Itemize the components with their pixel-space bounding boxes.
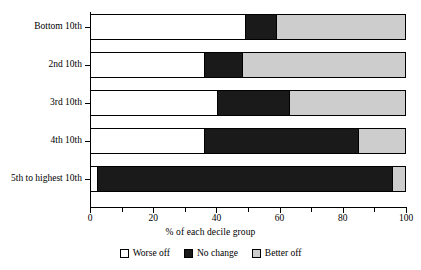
bar-segment-nochange	[217, 91, 289, 115]
x-tick-50	[248, 208, 249, 212]
x-tick-label-100: 100	[391, 213, 421, 224]
bar-row	[90, 52, 406, 78]
y-tick-4	[85, 179, 90, 180]
x-tick-label-20: 20	[138, 213, 168, 224]
bar-segment-worse	[91, 91, 217, 115]
y-axis-label-2: 3rd 10th	[50, 97, 82, 108]
bar-row	[90, 90, 406, 116]
legend-label: Worse off	[133, 247, 170, 259]
y-axis-label-4: 5th to highest 10th	[11, 173, 82, 184]
bar-segment-better	[276, 15, 405, 39]
y-tick-1	[85, 65, 90, 66]
x-tick-30	[185, 208, 186, 212]
x-tick-label-80: 80	[328, 213, 358, 224]
legend-item: Better off	[252, 247, 302, 259]
bar-segment-nochange	[245, 15, 276, 39]
legend-item: No change	[184, 247, 238, 259]
y-axis-label-3: 4th 10th	[51, 135, 82, 146]
chart-legend: Worse offNo changeBetter off	[0, 247, 421, 259]
bar-segment-better	[392, 167, 405, 191]
bar-segment-better	[358, 129, 405, 153]
y-tick-3	[85, 141, 90, 142]
x-tick-10	[122, 208, 123, 212]
x-axis-title: % of each decile group	[0, 226, 421, 238]
legend-item: Worse off	[120, 247, 170, 259]
x-tick-label-60: 60	[265, 213, 295, 224]
x-tick-90	[374, 208, 375, 212]
bar-row	[90, 128, 406, 154]
legend-label: No change	[197, 247, 238, 259]
y-axis-label-1: 2nd 10th	[48, 59, 82, 70]
y-tick-2	[85, 103, 90, 104]
x-tick-label-40: 40	[201, 213, 231, 224]
bar-segment-nochange	[97, 167, 392, 191]
legend-swatch-worse	[120, 249, 129, 258]
bar-segment-worse	[91, 15, 245, 39]
bar-segment-better	[289, 91, 405, 115]
bar-segment-worse	[91, 129, 204, 153]
bar-row	[90, 14, 406, 40]
bar-segment-worse	[91, 53, 204, 77]
y-axis-label-0: Bottom 10th	[34, 21, 82, 32]
bar-segment-nochange	[204, 129, 358, 153]
bar-row	[90, 166, 406, 192]
x-tick-70	[311, 208, 312, 212]
stacked-bar-chart: Bottom 10th2nd 10th3rd 10th4th 10th5th t…	[0, 0, 421, 270]
legend-swatch-nochange	[184, 249, 193, 258]
x-tick-label-0: 0	[75, 213, 105, 224]
legend-label: Better off	[265, 247, 302, 259]
y-tick-0	[85, 27, 90, 28]
legend-swatch-better	[252, 249, 261, 258]
bar-segment-better	[242, 53, 405, 77]
bar-segment-nochange	[204, 53, 242, 77]
